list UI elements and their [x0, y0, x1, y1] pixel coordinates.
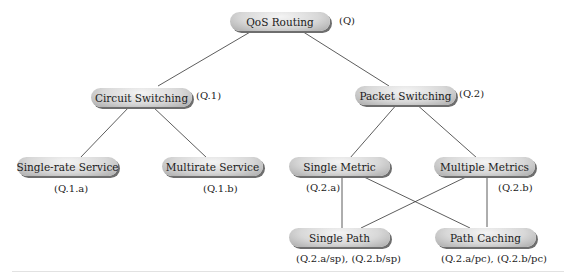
edge-singlemetric-pathcaching: [362, 176, 470, 228]
edge-circuit-singlerate: [80, 106, 130, 158]
code-pc: (Q.2.a/pc), (Q.2.b/pc): [441, 253, 547, 264]
edge-circuit-multirate: [152, 106, 207, 158]
node-multirate-service: Multirate Service: [162, 157, 263, 176]
code-q2: (Q.2): [459, 88, 484, 99]
edge-multiplemetrics-singlepath: [361, 176, 468, 228]
node-single-rate-service: Single-rate Service: [17, 157, 118, 176]
code-q2b: (Q.2.b): [498, 182, 533, 193]
edge-packet-singlemetric: [350, 103, 398, 158]
code-q: (Q): [339, 15, 355, 26]
edge-packet-multiplemetrics: [415, 103, 477, 158]
code-sp: (Q.2.a/sp), (Q.2.b/sp): [296, 253, 401, 264]
code-q2a: (Q.2.a): [306, 182, 340, 193]
code-q1a: (Q.1.a): [54, 183, 88, 194]
node-packet-switching: Packet Switching: [355, 86, 456, 105]
node-single-path: Single Path: [289, 228, 390, 247]
node-single-metric: Single Metric: [289, 157, 390, 176]
node-circuit-switching: Circuit Switching: [91, 88, 192, 107]
node-qos-routing: QoS Routing: [230, 12, 330, 31]
code-q1: (Q.1): [196, 90, 221, 101]
node-multiple-metrics: Multiple Metrics: [434, 157, 535, 176]
qos-routing-taxonomy-diagram: QoS Routing (Q) Circuit Switching (Q.1) …: [0, 0, 564, 280]
divider-line: [12, 271, 564, 272]
edge-root-circuit: [158, 28, 257, 86]
code-q1b: (Q.1.b): [203, 183, 238, 194]
node-path-caching: Path Caching: [435, 228, 536, 247]
edge-root-packet: [297, 28, 389, 86]
